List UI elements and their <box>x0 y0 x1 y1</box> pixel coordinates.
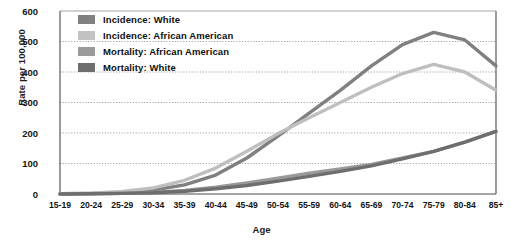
gridlines <box>60 42 496 164</box>
legend-swatch-icon <box>78 31 95 40</box>
series-line-2 <box>60 131 496 194</box>
legend-label: Mortality: White <box>103 62 176 73</box>
legend-item-mortality-african-american: Mortality: African American <box>78 46 229 57</box>
chart-container: Rate per 100,000 600 500 400 300 200 100… <box>0 0 523 244</box>
legend-swatch-icon <box>78 47 95 56</box>
x-axis-title: Age <box>0 224 523 235</box>
legend-item-incidence-african-american: Incidence: African American <box>78 30 233 41</box>
series-line-1 <box>60 64 496 193</box>
legend-item-incidence-white: Incidence: White <box>78 14 180 25</box>
x-tick-label: 85+ <box>471 201 521 210</box>
legend-label: Incidence: African American <box>103 30 233 41</box>
legend-swatch-icon <box>78 63 95 72</box>
legend-label: Incidence: White <box>103 14 180 25</box>
legend-label: Mortality: African American <box>103 46 229 57</box>
series-line-3 <box>60 131 496 194</box>
legend-item-mortality-white: Mortality: White <box>78 62 176 73</box>
legend-swatch-icon <box>78 15 95 24</box>
